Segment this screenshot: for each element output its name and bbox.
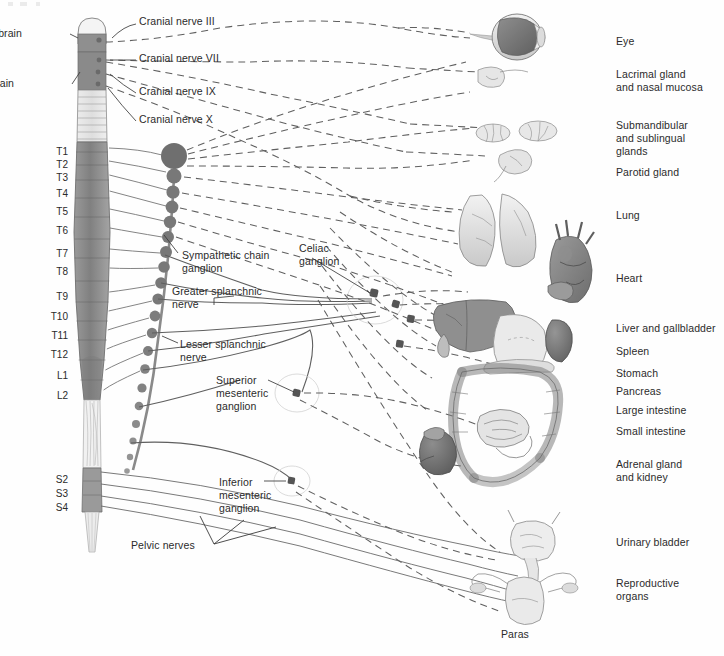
- spinal-segment-T8: T8: [34, 266, 68, 277]
- organ-salivary-glands: [476, 121, 557, 142]
- organ-small-intestine: [477, 409, 532, 457]
- label-cn7: Cranial nerve VII: [139, 52, 219, 65]
- label-superior-mesenteric-ganglion: Superior mesenteric ganglion: [216, 374, 268, 413]
- spinal-segment-T3: T3: [34, 172, 68, 183]
- spinal-cord-group: [74, 18, 110, 552]
- label-parasympathetic-partial: Paras: [501, 628, 529, 641]
- spinal-segment-S3: S3: [34, 488, 68, 499]
- spinal-segment-T9: T9: [34, 291, 68, 302]
- label-organ-pancreas: Pancreas: [616, 385, 661, 398]
- organ-urinary-bladder: [508, 510, 560, 584]
- spinal-segment-T11: T11: [34, 330, 68, 341]
- prevertebral-ganglia: [274, 276, 415, 496]
- label-organ-submandibular: Submandibular and sublingual glands: [616, 119, 688, 158]
- label-organ-lung: Lung: [616, 209, 640, 222]
- label-cn9: Cranial nerve IX: [139, 85, 216, 98]
- label-organ-reproductive-organs: Reproductive organs: [616, 577, 679, 603]
- label-greater-splanchnic-nerve: Greater splanchnic nerve: [172, 285, 262, 311]
- label-organ-lacrimal-nasal: Lacrimal gland and nasal mucosa: [616, 68, 703, 94]
- label-lesser-splanchnic-nerve: Lesser splanchnic nerve: [180, 338, 266, 364]
- spinal-segment-T12: T12: [34, 349, 68, 360]
- spinal-segment-T1: T1: [34, 146, 68, 157]
- organ-parotid-gland: [494, 150, 532, 182]
- label-pelvic-nerves: Pelvic nerves: [131, 539, 195, 552]
- spinal-segment-T5: T5: [34, 206, 68, 217]
- organ-reproductive: [470, 573, 578, 625]
- spinal-segment-L1: L1: [34, 370, 68, 381]
- spinal-segment-T6: T6: [34, 225, 68, 236]
- label-organ-urinary-bladder: Urinary bladder: [616, 536, 689, 549]
- label-sympathetic-chain-ganglion: Sympathetic chain ganglion: [182, 249, 270, 275]
- label-cn10: Cranial nerve X: [139, 113, 213, 126]
- organ-lung: [459, 194, 536, 267]
- spinal-segment-T4: T4: [34, 188, 68, 199]
- spinal-segment-S4: S4: [34, 502, 68, 513]
- spinal-segment-L2: L2: [34, 390, 68, 401]
- organ-eye: [470, 14, 545, 60]
- diagram-canvas: MidbrainHindbrainCranial nerve IIICrania…: [0, 0, 724, 656]
- organ-lacrimal-gland: [478, 67, 528, 87]
- organs-group: [419, 14, 594, 625]
- label-organ-liver-gallbladder: Liver and gallbladder: [616, 322, 716, 335]
- spinal-segment-T7: T7: [34, 248, 68, 259]
- label-hindbrain: Hindbrain: [0, 77, 14, 90]
- label-cn3: Cranial nerve III: [139, 15, 215, 28]
- spinal-segment-T10: T10: [34, 311, 68, 322]
- label-celiac-ganglion: Celiac ganglion: [299, 242, 340, 268]
- label-midbrain: Midbrain: [0, 27, 22, 40]
- spinal-segment-T2: T2: [34, 159, 68, 170]
- label-organ-small-intestine: Small intestine: [616, 425, 686, 438]
- label-organ-spleen: Spleen: [616, 345, 649, 358]
- label-organ-eye: Eye: [616, 35, 634, 48]
- label-inferior-mesenteric-ganglion: Inferior mesenteric ganglion: [219, 476, 271, 515]
- pelvic-nerves-group: [101, 472, 520, 602]
- label-organ-stomach: Stomach: [616, 367, 658, 380]
- organ-spleen: [546, 320, 573, 362]
- label-organ-heart: Heart: [616, 272, 642, 285]
- label-organ-parotid: Parotid gland: [616, 166, 679, 179]
- label-organ-adrenal-kidney: Adrenal gland and kidney: [616, 458, 682, 484]
- label-organ-large-intestine: Large intestine: [616, 404, 686, 417]
- spinal-segment-S2: S2: [34, 474, 68, 485]
